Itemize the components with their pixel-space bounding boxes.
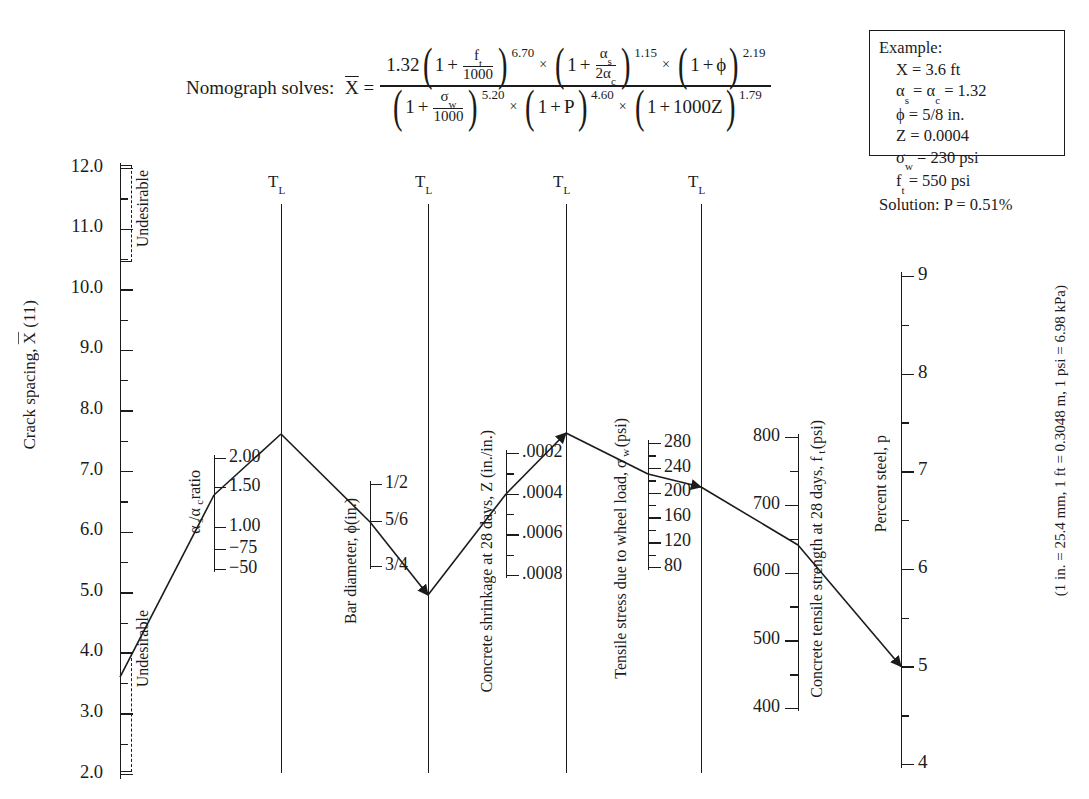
axis-tick — [506, 575, 519, 576]
example-line-alpha: αs = αc = 1.32 — [879, 80, 1055, 104]
axis-tick — [120, 410, 133, 411]
axis-tick — [790, 606, 798, 607]
axis-tick-label: 4.0 — [80, 641, 103, 660]
turning-line-label-1: TL — [268, 172, 285, 193]
axis-tick-label: 280 — [664, 432, 691, 450]
axis-tick — [785, 437, 798, 438]
axis-tick — [901, 471, 914, 472]
axis-tick — [785, 505, 798, 506]
axis-tick — [648, 542, 661, 543]
axis-tick-label: 5/6 — [385, 510, 408, 528]
axis-tick-label: 8 — [918, 362, 928, 381]
turning-line-4 — [701, 204, 702, 773]
axis-tick-label: 11.0 — [71, 217, 103, 236]
axis-tick-label: 3.0 — [80, 702, 103, 721]
axis-tick — [648, 567, 661, 568]
turning-line-label-4: TL — [688, 172, 705, 193]
exponent-alpha: 1.15 — [634, 45, 657, 61]
axis-tick-label: .0002 — [522, 442, 563, 460]
construction-segment-7 — [566, 433, 648, 474]
axis-tick-label: 1.50 — [229, 476, 261, 494]
axis-tick — [648, 493, 661, 494]
undesirable-lower-label: Undesirable — [134, 610, 152, 687]
axis-tick — [214, 549, 226, 550]
axis-tick — [648, 555, 656, 556]
axis-tick-label: 8.0 — [80, 399, 103, 418]
axis-tick-label: 500 — [753, 629, 780, 647]
undesirable-upper-cap-bottom — [120, 261, 132, 262]
axis-tick-label: 9.0 — [80, 338, 103, 357]
unit-conversion-note: (1 in. = 25.4 mm, 1 ft = 0.3048 m, 1 psi… — [1052, 285, 1069, 596]
alphas-over-2alphac: αs 2αc — [596, 46, 616, 84]
axis-tick — [120, 623, 128, 624]
axis-tick — [120, 713, 133, 714]
undesirable-upper-label: Undesirable — [134, 170, 152, 247]
axis-tick — [120, 592, 133, 593]
example-box: Example: X = 3.6 ft αs = αc = 1.32 ϕ = 5… — [869, 30, 1065, 156]
ft-over-1000: ft 1000 — [463, 48, 493, 83]
axis-tick-label: 1/2 — [385, 473, 408, 491]
example-solution: Solution: P = 0.51% — [879, 194, 1055, 215]
axis-tick — [120, 320, 128, 321]
axis-tick — [648, 468, 661, 469]
axis-tick-label: 2.00 — [229, 447, 261, 465]
sigmaw-over-1000: σw 1000 — [433, 89, 463, 124]
formula-coefficient: 1.32 — [386, 54, 419, 76]
axis-tick — [648, 480, 656, 481]
axis-tick-label: 160 — [664, 506, 691, 524]
undesirable-lower-cap-bottom — [120, 771, 132, 772]
axis-tick — [370, 484, 382, 485]
axis-tick-label: .0008 — [522, 564, 563, 582]
axis-tick — [370, 566, 382, 567]
axis-tick — [506, 514, 514, 515]
axis-tick — [120, 562, 128, 563]
example-title: Example: — [879, 37, 1055, 59]
formula-denominator: ( 1 + σw 1000 ) 5.20 × ( 1 + P ) — [384, 87, 768, 127]
axis-tick — [901, 422, 909, 423]
axis-tick-label: 5.0 — [80, 581, 103, 600]
axis-tick-label: 6 — [918, 557, 928, 576]
axis-tick — [120, 441, 128, 442]
exponent-Z: 1.79 — [739, 87, 762, 103]
axis-tick — [901, 520, 909, 521]
axis-tick-label: 1.00 — [229, 516, 261, 534]
axis-tick-label: 2.0 — [80, 763, 103, 782]
axis-tick — [214, 458, 226, 459]
axis-tick-label: 3/4 — [385, 555, 408, 573]
formula-numerator: 1.32 ( 1 + ft 1000 ) 6.70 × ( 1 + — [380, 45, 771, 85]
axis-tick — [120, 198, 128, 199]
example-line-X: X = 3.6 ft — [879, 59, 1055, 80]
formula-lead-label: Nomograph solves: X = — [186, 73, 374, 99]
axis-tick — [648, 455, 656, 456]
turning-line-2 — [428, 204, 429, 773]
axis-tick-label: −75 — [229, 538, 257, 556]
crack-spacing-axis-title: Crack spacing, X (11) — [20, 300, 40, 450]
axis-tick — [370, 521, 382, 522]
axis-tick — [901, 666, 914, 667]
axis-tick — [120, 350, 133, 351]
turning-line-label-3: TL — [553, 172, 570, 193]
turning-line-3 — [566, 204, 567, 773]
turning-line-1 — [281, 204, 282, 773]
tensile-strength-axis-line — [798, 434, 799, 711]
axis-tick — [506, 473, 514, 474]
tensile-stress-axis-title: Tensile stress due to wheel load, σw (ps… — [612, 418, 631, 679]
exponent-sigma: 5.20 — [482, 87, 505, 103]
exponent-ft: 6.70 — [511, 45, 534, 61]
example-line-phi: ϕ = 5/8 in. — [879, 104, 1055, 125]
axis-tick-label: 200 — [664, 481, 691, 499]
axis-tick — [648, 517, 661, 518]
formula-fraction: 1.32 ( 1 + ft 1000 ) 6.70 × ( 1 + — [380, 45, 771, 127]
axis-tick-label: 12.0 — [71, 157, 103, 176]
axis-tick — [120, 289, 133, 290]
alpha-ratio-axis-title: αs/αc ratio — [186, 470, 205, 534]
axis-tick — [120, 471, 133, 472]
alpha-ratio-axis-line — [214, 455, 215, 572]
axis-tick-label: 9 — [918, 264, 928, 283]
axis-tick — [901, 276, 914, 277]
axis-tick-label: 400 — [753, 697, 780, 715]
axis-tick-label: .0006 — [522, 523, 563, 541]
axis-tick — [901, 618, 909, 619]
example-line-ft: ft = 550 psi — [879, 170, 1055, 194]
axis-tick — [790, 674, 798, 675]
